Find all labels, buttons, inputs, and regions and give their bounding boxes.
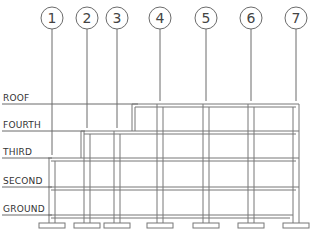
grid-label-4: 4	[149, 7, 171, 29]
grid-label-1: 1	[41, 7, 63, 29]
level-label-ground: GROUND	[3, 204, 45, 214]
footings	[39, 223, 309, 228]
footing	[104, 223, 130, 228]
level-label-third: THIRD	[3, 147, 32, 157]
grid-label-5: 5	[195, 7, 217, 29]
grid-label-3: 3	[106, 7, 128, 29]
level-label-fourth: FOURTH	[3, 120, 41, 130]
level-label-roof: ROOF	[3, 93, 29, 103]
building-frame	[48, 104, 299, 223]
footing	[193, 223, 219, 228]
level-label-second: SECOND	[3, 176, 43, 186]
grid-label-2: 2	[76, 7, 98, 29]
footing	[147, 223, 173, 228]
structural-elevation-drawing	[0, 0, 313, 235]
grid-label-7: 7	[285, 7, 307, 29]
grid-label-6: 6	[240, 7, 262, 29]
footing	[39, 223, 65, 228]
footing	[238, 223, 264, 228]
footing	[74, 223, 100, 228]
elevation-diagram: ROOF FOURTH THIRD SECOND GROUND 1 2 3 4 …	[0, 0, 313, 235]
footing	[283, 223, 309, 228]
